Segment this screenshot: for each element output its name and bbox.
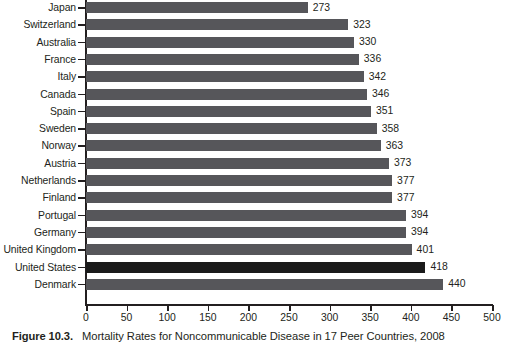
- x-axis-tick-label: 150: [188, 312, 228, 323]
- bar-value-label: 440: [448, 277, 465, 290]
- x-axis-tick: [411, 305, 413, 311]
- category-label: Germany: [0, 226, 76, 239]
- y-axis-tick: [78, 42, 85, 44]
- bar: [86, 192, 392, 203]
- x-axis-tick: [492, 305, 494, 311]
- x-axis-tick: [451, 305, 453, 311]
- bar-value-label: 346: [372, 87, 389, 100]
- category-label: Australia: [0, 36, 76, 49]
- bar-value-label: 363: [386, 139, 403, 152]
- bar-value-label: 418: [430, 260, 447, 273]
- bar-value-label: 330: [359, 35, 376, 48]
- category-label: Sweden: [0, 122, 76, 135]
- figure-caption: Figure 10.3.Mortality Rates for Noncommu…: [12, 329, 517, 344]
- category-label: Canada: [0, 88, 76, 101]
- figure-caption-text: Mortality Rates for Noncommunicable Dise…: [82, 330, 445, 342]
- bar-row: Switzerland323: [0, 18, 524, 35]
- y-axis-tick: [78, 94, 85, 96]
- x-axis-tick-label: 100: [147, 312, 187, 323]
- bar: [86, 227, 406, 238]
- y-axis-tick: [78, 267, 85, 269]
- category-label: United Kingdom: [0, 243, 76, 256]
- x-axis-tick-label: 200: [228, 312, 268, 323]
- category-label: Italy: [0, 70, 76, 83]
- y-axis-tick: [78, 7, 85, 9]
- bar-value-label: 342: [369, 70, 386, 83]
- bar-row: Finland377: [0, 191, 524, 208]
- category-label: Norway: [0, 139, 76, 152]
- category-label: Denmark: [0, 278, 76, 291]
- category-label: Portugal: [0, 209, 76, 222]
- bar-value-label: 351: [376, 104, 393, 117]
- bar-row: Japan273: [0, 1, 524, 18]
- bar-value-label: 373: [394, 156, 411, 169]
- x-axis-tick: [370, 305, 372, 311]
- category-label: United States: [0, 261, 76, 274]
- bar-row: Spain351: [0, 105, 524, 122]
- y-axis-tick: [78, 249, 85, 251]
- bar: [86, 37, 354, 48]
- bar: [86, 210, 406, 221]
- x-axis-tick-label: 500: [472, 312, 512, 323]
- bar-row: Denmark440: [0, 278, 524, 295]
- bar-value-label: 273: [313, 1, 330, 14]
- category-label: Japan: [0, 1, 76, 14]
- bar-row: United Kingdom401: [0, 243, 524, 260]
- bar: [86, 158, 389, 169]
- x-axis-tick: [86, 305, 88, 311]
- x-axis-tick-label: 350: [350, 312, 390, 323]
- figure-container: Japan273Switzerland323Australia330France…: [0, 0, 524, 350]
- bar: [86, 89, 367, 100]
- bar: [86, 2, 308, 13]
- category-label: Spain: [0, 105, 76, 118]
- bar-value-label: 377: [397, 174, 414, 187]
- x-axis-tick-label: 300: [310, 312, 350, 323]
- y-axis-tick: [78, 145, 85, 147]
- x-axis-tick: [208, 305, 210, 311]
- y-axis-tick: [78, 128, 85, 130]
- bar: [86, 262, 425, 273]
- category-label: France: [0, 53, 76, 66]
- x-axis-tick: [127, 305, 129, 311]
- y-axis-tick: [78, 284, 85, 286]
- bar-value-label: 323: [353, 18, 370, 31]
- category-label: Netherlands: [0, 174, 76, 187]
- y-axis-tick: [78, 180, 85, 182]
- bar-row: Austria373: [0, 157, 524, 174]
- category-label: Finland: [0, 191, 76, 204]
- x-axis-tick: [289, 305, 291, 311]
- bar-value-label: 394: [411, 208, 428, 221]
- bar-row: Norway363: [0, 139, 524, 156]
- y-axis-tick: [78, 232, 85, 234]
- x-axis-tick-label: 50: [107, 312, 147, 323]
- bar: [86, 140, 381, 151]
- bar-row: Sweden358: [0, 122, 524, 139]
- bar-value-label: 336: [364, 52, 381, 65]
- bar-row: Germany394: [0, 226, 524, 243]
- y-axis-tick: [78, 163, 85, 165]
- bar: [86, 244, 412, 255]
- y-axis-tick: [78, 215, 85, 217]
- y-axis-tick: [78, 24, 85, 26]
- bar-value-label: 401: [417, 243, 434, 256]
- x-axis-tick-label: 0: [66, 312, 106, 323]
- bar-row: Italy342: [0, 70, 524, 87]
- y-axis-tick: [78, 76, 85, 78]
- y-axis-tick: [78, 197, 85, 199]
- y-axis-tick: [78, 59, 85, 61]
- bar-row: Australia330: [0, 36, 524, 53]
- bar-value-label: 394: [411, 225, 428, 238]
- category-label: Switzerland: [0, 18, 76, 31]
- bar: [86, 123, 377, 134]
- bar: [86, 19, 348, 30]
- bar-value-label: 358: [382, 122, 399, 135]
- bar: [86, 71, 364, 82]
- category-label: Austria: [0, 157, 76, 170]
- x-axis-tick: [167, 305, 169, 311]
- bar-row: France336: [0, 53, 524, 70]
- bar-row: Netherlands377: [0, 174, 524, 191]
- x-axis-tick-label: 400: [391, 312, 431, 323]
- bar-value-label: 377: [397, 191, 414, 204]
- x-axis-tick: [248, 305, 250, 311]
- figure-caption-label: Figure 10.3.: [12, 330, 73, 342]
